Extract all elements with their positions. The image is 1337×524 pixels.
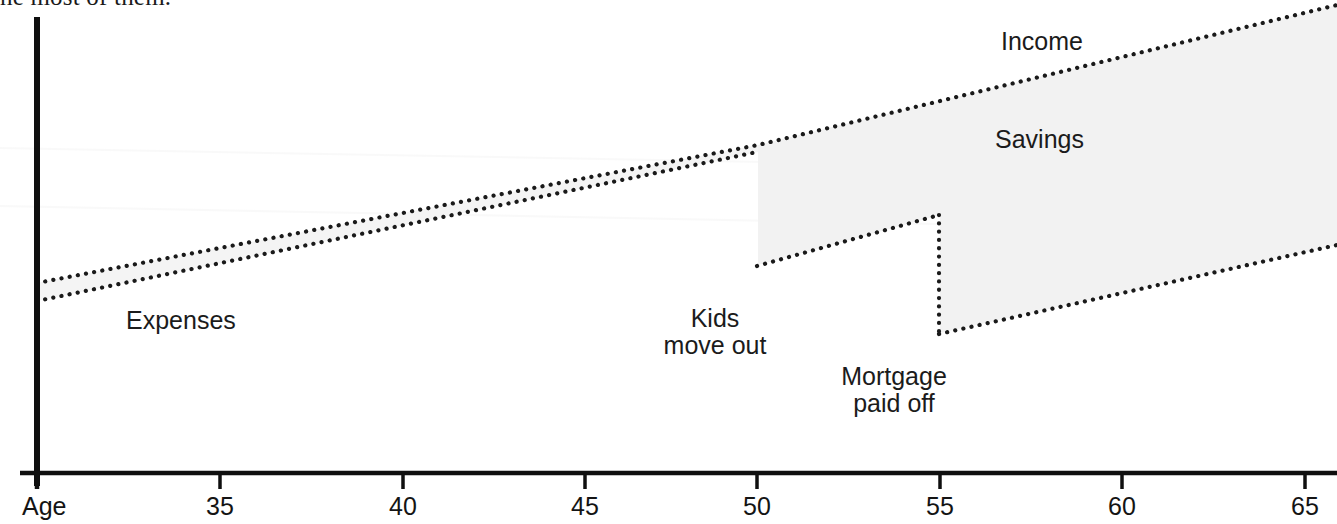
income-series-label: Income bbox=[1001, 28, 1083, 55]
kids-move-out-line2: move out bbox=[664, 332, 767, 359]
chart-page: he most of them. bbox=[0, 0, 1337, 524]
x-tick-label-40: 40 bbox=[389, 492, 417, 521]
mortgage-paid-off-line2: paid off bbox=[841, 390, 947, 417]
x-tick-label-50: 50 bbox=[743, 492, 771, 521]
x-tick-label-35: 35 bbox=[206, 492, 234, 521]
x-tick-label-65: 65 bbox=[1291, 492, 1319, 521]
savings-region-label: Savings bbox=[995, 126, 1084, 153]
mortgage-paid-off-line1: Mortgage bbox=[841, 363, 947, 390]
kids-move-out-line1: Kids bbox=[664, 305, 767, 332]
kids-move-out-annotation: Kids move out bbox=[664, 305, 767, 359]
x-axis-ticks bbox=[37, 473, 1305, 489]
x-axis-name: Age bbox=[22, 492, 66, 521]
x-tick-label-60: 60 bbox=[1108, 492, 1136, 521]
x-tick-label-55: 55 bbox=[926, 492, 954, 521]
expenses-series-label: Expenses bbox=[126, 307, 236, 334]
income-expenses-savings-chart bbox=[0, 0, 1337, 524]
x-tick-label-45: 45 bbox=[571, 492, 599, 521]
pre-50-gap-band bbox=[37, 145, 758, 301]
mortgage-paid-off-annotation: Mortgage paid off bbox=[841, 363, 947, 417]
